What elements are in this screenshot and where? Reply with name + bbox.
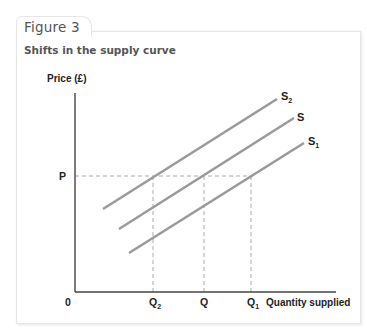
label-s1: S1 [308,135,319,149]
supply-line-s [119,118,294,229]
supply-curve-chart: Price (£) S2 S S1 P 0 Q2 Q Q1 Quantity s… [0,0,367,335]
label-s: S [297,111,304,123]
label-s2: S2 [281,90,292,104]
origin-label: 0 [65,296,71,308]
price-tick-p: P [59,170,66,182]
y-axis-label: Price (£) [47,73,86,84]
tick-q: Q [200,296,208,308]
tick-q2: Q2 [149,296,161,310]
tick-q1: Q1 [247,296,259,310]
x-axis-label: Quantity supplied [266,297,350,308]
supply-line-s1 [129,143,304,253]
